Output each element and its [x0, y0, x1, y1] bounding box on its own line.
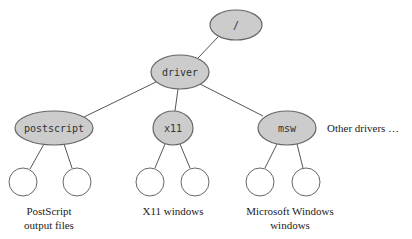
edge-postscript-leaf2 — [64, 144, 72, 168]
edge-root-driver — [198, 37, 218, 58]
msw-leaf-1 — [246, 168, 274, 196]
postscript-leaf-1 — [9, 168, 37, 196]
x11-node: x11 — [153, 111, 193, 145]
driver-tree-diagram: / driver postscript x11 msw PostScript o… — [0, 0, 412, 239]
msw-node-label: msw — [278, 123, 297, 134]
edge-driver-msw — [200, 84, 263, 116]
x11-node-label: x11 — [164, 123, 182, 134]
postscript-leaf-2 — [63, 168, 91, 196]
x11-caption-line1: X11 windows — [142, 205, 203, 217]
postscript-node-label: postscript — [24, 123, 84, 134]
postscript-caption-line1: PostScript — [26, 205, 71, 217]
msw-caption-line2: windows — [270, 219, 310, 231]
x11-leaf-1 — [136, 168, 164, 196]
edge-x11-leaf1 — [155, 144, 165, 168]
msw-caption-line1: Microsoft Windows — [246, 205, 334, 217]
edge-msw-leaf1 — [265, 144, 277, 168]
edge-x11-leaf2 — [180, 144, 190, 168]
msw-node: msw — [258, 111, 316, 145]
root-node: / — [210, 10, 262, 40]
driver-node-label: driver — [162, 67, 198, 78]
x11-leaf-2 — [181, 168, 209, 196]
driver-node: driver — [151, 55, 209, 89]
other-drivers-label: Other drivers … — [327, 122, 399, 134]
msw-leaf-2 — [292, 168, 320, 196]
edge-postscript-leaf1 — [30, 144, 44, 169]
root-node-label: / — [233, 20, 239, 31]
edge-msw-leaf2 — [297, 144, 303, 168]
edge-driver-postscript — [84, 82, 156, 117]
postscript-node: postscript — [15, 111, 93, 145]
edge-driver-x11 — [175, 89, 178, 111]
postscript-caption-line2: output files — [24, 219, 74, 231]
